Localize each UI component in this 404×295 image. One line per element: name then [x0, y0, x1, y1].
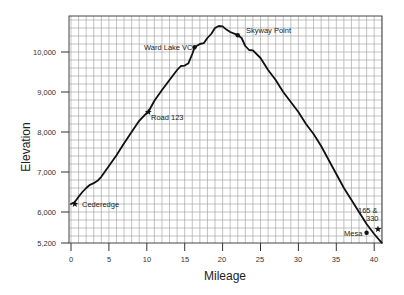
y-axis-title: Elevation	[19, 122, 33, 171]
x-tick-label: 30	[294, 255, 302, 264]
label-road-123: Road 123	[151, 113, 184, 122]
y-tick-label: 6,000	[37, 208, 56, 217]
elevation-chart: 0 5 10 15 20 25 30 35 40 10,000 9,000 8,…	[0, 0, 404, 295]
x-tick-label: 40	[370, 255, 378, 264]
elevation-line	[71, 26, 382, 243]
star-marker-icon	[71, 200, 78, 207]
label-ward-lake-vc: Ward Lake VC	[144, 43, 193, 52]
y-tick-labels: 10,000 9,000 8,000 7,000 6,000 5,200	[33, 48, 56, 248]
x-tick-label: 10	[143, 255, 151, 264]
dot-marker-icon	[236, 33, 240, 37]
x-tick-label: 15	[181, 255, 189, 264]
y-tick-label: 5,200	[37, 239, 56, 248]
dot-marker-icon	[192, 45, 196, 49]
label-mesa: Mesa	[344, 229, 363, 238]
label-cederedge: Cederedge	[82, 200, 119, 209]
x-tick-labels: 0 5 10 15 20 25 30 35 40	[69, 255, 378, 264]
label-junction-line2: 330	[366, 214, 379, 223]
y-axis	[61, 52, 69, 243]
x-tick-label: 5	[107, 255, 111, 264]
y-tick-label: 7,000	[37, 168, 56, 177]
x-axis-title: Mileage	[204, 269, 246, 283]
x-axis	[71, 243, 374, 251]
star-marker-icon	[375, 226, 382, 233]
label-skyway-point: Skyway Point	[246, 26, 292, 35]
y-tick-label: 8,000	[37, 128, 56, 137]
x-tick-label: 0	[69, 255, 73, 264]
x-tick-label: 20	[218, 255, 226, 264]
x-tick-label: 25	[256, 255, 264, 264]
dot-marker-icon	[364, 231, 368, 235]
x-tick-label: 35	[332, 255, 340, 264]
y-tick-label: 9,000	[37, 88, 56, 97]
y-tick-label: 10,000	[33, 48, 56, 57]
